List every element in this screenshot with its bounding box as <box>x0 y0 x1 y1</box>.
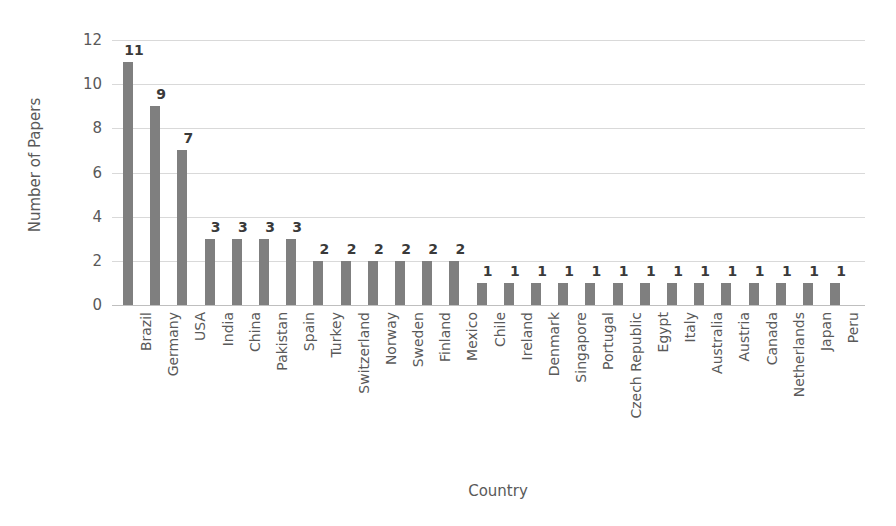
bar[interactable] <box>531 283 541 305</box>
bar[interactable] <box>123 62 133 305</box>
bar-value-label: 2 <box>311 241 337 258</box>
bar-value-label: 1 <box>774 263 800 280</box>
bar-value-label: 3 <box>257 219 283 236</box>
bar-value-label: 1 <box>556 263 582 280</box>
bar-value-label: 2 <box>339 241 365 258</box>
bar-value-label: 11 <box>121 42 147 59</box>
x-axis-category-label: Pakistan <box>271 312 293 472</box>
bar-value-label: 1 <box>828 263 854 280</box>
bar-value-label: 1 <box>801 263 827 280</box>
x-axis-category-label: Austria <box>733 312 755 472</box>
bar-value-label: 1 <box>475 263 501 280</box>
bar[interactable] <box>422 261 432 305</box>
bar-value-label: 9 <box>148 86 174 103</box>
bar-value-label: 2 <box>447 241 473 258</box>
bar-chart: Number of Papers 024681012 1197333322222… <box>0 0 896 526</box>
bar[interactable] <box>341 261 351 305</box>
gridline <box>112 217 865 218</box>
x-axis-category-label: China <box>244 312 266 472</box>
x-axis-category-label: Peru <box>842 312 864 472</box>
bar[interactable] <box>585 283 595 305</box>
gridline <box>112 173 865 174</box>
x-axis-line <box>112 305 865 306</box>
bar[interactable] <box>449 261 459 305</box>
bar-value-label: 1 <box>665 263 691 280</box>
bar[interactable] <box>286 239 296 305</box>
y-axis-tick-label: 6 <box>58 164 102 182</box>
gridline <box>112 261 865 262</box>
x-axis-category-label: Netherlands <box>788 312 810 472</box>
x-axis-category-label: Chile <box>489 312 511 472</box>
y-axis-tick-label: 4 <box>58 208 102 226</box>
x-axis-category-label: Mexico <box>461 312 483 472</box>
bar[interactable] <box>232 239 242 305</box>
x-axis-category-label: Turkey <box>325 312 347 472</box>
x-axis-category-label: Finland <box>434 312 456 472</box>
x-axis-category-label: Japan <box>815 312 837 472</box>
gridline <box>112 84 865 85</box>
bar[interactable] <box>177 150 187 305</box>
bar[interactable] <box>640 283 650 305</box>
bar-value-label: 1 <box>747 263 773 280</box>
bar-value-label: 1 <box>638 263 664 280</box>
x-axis-category-label: Denmark <box>543 312 565 472</box>
bar[interactable] <box>749 283 759 305</box>
bar[interactable] <box>803 283 813 305</box>
bar[interactable] <box>558 283 568 305</box>
y-axis-tick-label: 2 <box>58 252 102 270</box>
bar-value-label: 3 <box>203 219 229 236</box>
x-axis-category-label: Norway <box>380 312 402 472</box>
x-axis-category-label: Germany <box>162 312 184 472</box>
bar[interactable] <box>368 261 378 305</box>
x-axis-category-label: Canada <box>761 312 783 472</box>
x-axis-category-label: Egypt <box>652 312 674 472</box>
y-axis-tick-label: 0 <box>58 296 102 314</box>
x-axis-category-label: India <box>217 312 239 472</box>
x-axis-category-label: USA <box>189 312 211 472</box>
bar-value-label: 1 <box>502 263 528 280</box>
gridline <box>112 40 865 41</box>
x-axis-category-label: Australia <box>706 312 728 472</box>
bar-value-label: 7 <box>175 130 201 147</box>
gridline <box>112 128 865 129</box>
bar-value-label: 2 <box>393 241 419 258</box>
x-axis-category-label: Switzerland <box>353 312 375 472</box>
bar-value-label: 1 <box>692 263 718 280</box>
x-axis-category-label: Italy <box>679 312 701 472</box>
bar[interactable] <box>205 239 215 305</box>
bar[interactable] <box>694 283 704 305</box>
y-axis-title: Number of Papers <box>22 20 48 310</box>
x-axis-category-label: Portugal <box>597 312 619 472</box>
bar[interactable] <box>150 106 160 305</box>
bar-value-label: 1 <box>583 263 609 280</box>
bar-value-label: 1 <box>719 263 745 280</box>
x-axis-category-label: Sweden <box>407 312 429 472</box>
x-axis-category-label: Spain <box>298 312 320 472</box>
bar[interactable] <box>776 283 786 305</box>
bar[interactable] <box>259 239 269 305</box>
bar[interactable] <box>667 283 677 305</box>
bar-value-label: 2 <box>366 241 392 258</box>
y-axis-tick-label: 10 <box>58 75 102 93</box>
bar[interactable] <box>395 261 405 305</box>
bar[interactable] <box>504 283 514 305</box>
y-axis-tick-label: 8 <box>58 119 102 137</box>
y-axis-tick-label: 12 <box>58 31 102 49</box>
bar[interactable] <box>830 283 840 305</box>
bar-value-label: 3 <box>230 219 256 236</box>
x-axis-category-label: Brazil <box>135 312 157 472</box>
bar-value-label: 2 <box>420 241 446 258</box>
bar-value-label: 1 <box>529 263 555 280</box>
x-axis-category-label: Singapore <box>570 312 592 472</box>
bar[interactable] <box>313 261 323 305</box>
x-axis-title: Country <box>128 482 868 500</box>
bar[interactable] <box>721 283 731 305</box>
bar[interactable] <box>613 283 623 305</box>
x-axis-category-label: Ireland <box>516 312 538 472</box>
bar-value-label: 3 <box>284 219 310 236</box>
x-axis-category-label: Czech Republic <box>625 312 647 472</box>
bar-value-label: 1 <box>611 263 637 280</box>
bar[interactable] <box>477 283 487 305</box>
